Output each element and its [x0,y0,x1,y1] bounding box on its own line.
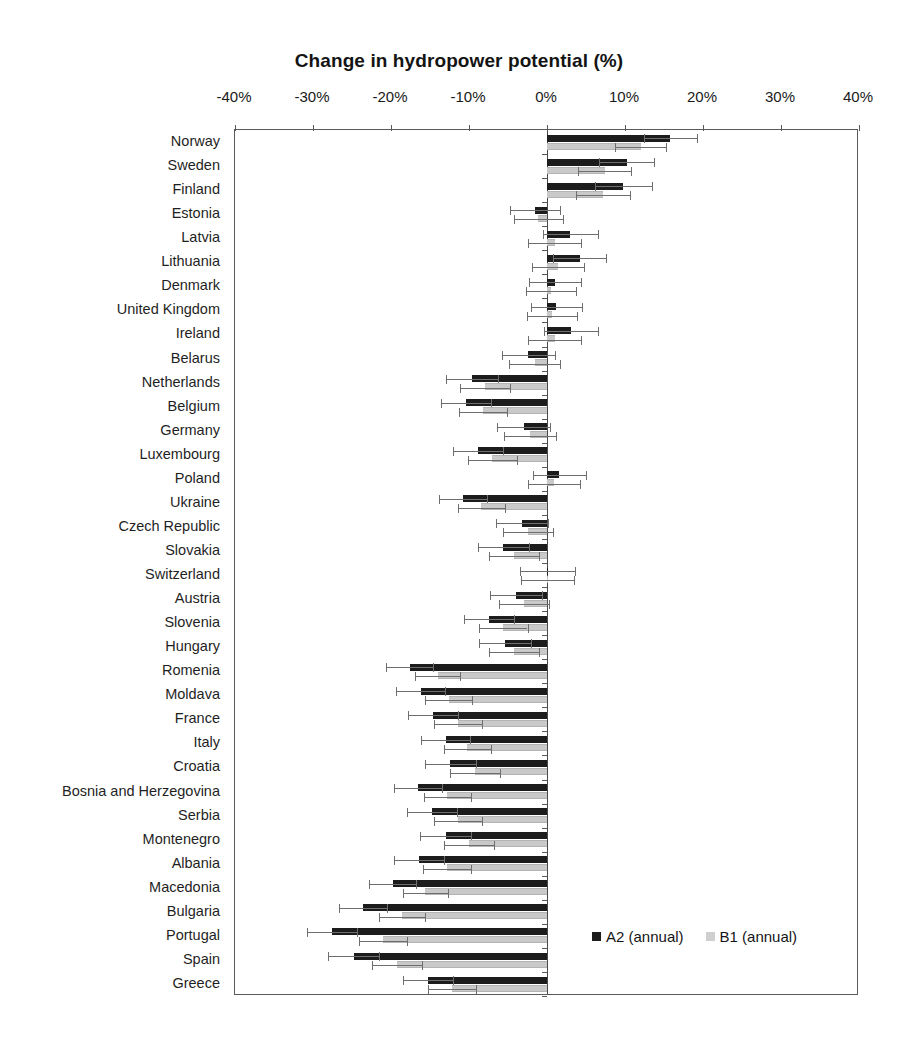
error-bar-cap [582,303,583,312]
error-bar-line [444,845,494,846]
error-bar-line [578,171,631,172]
y-tick-mark [542,539,547,540]
y-tick-mark [542,587,547,588]
error-bar-cap [576,191,577,200]
category-label: Lithuania [161,253,220,269]
error-bar-cap [539,552,540,561]
error-bar-cap [379,913,380,922]
error-bar-cap [533,471,534,480]
x-tick-mark [703,125,704,131]
legend-item: B1 (annual) [706,928,798,945]
error-bar-cap [379,952,380,961]
y-tick-mark [542,491,547,492]
error-bar-cap [504,432,505,441]
error-bar-line [526,291,576,292]
category-label: Sweden [168,157,220,173]
x-tick-mark [625,125,626,131]
error-bar-line [514,219,562,220]
error-bar-cap [652,182,653,191]
bar-b1 [535,359,547,366]
error-bar-line [396,691,444,692]
category-label: Slovakia [165,542,220,558]
error-bar-cap [387,904,388,913]
bar-b1 [483,407,547,414]
y-tick-mark [542,996,547,997]
error-bar-cap [666,143,667,152]
error-bar-cap [439,495,440,504]
error-bar-line [499,604,549,605]
y-tick-mark [542,804,547,805]
x-tick-mark [859,125,860,131]
error-bar-line [504,436,555,437]
error-bar-cap [505,504,506,513]
y-tick-mark [542,828,547,829]
y-tick-mark [542,852,547,853]
error-bar-line [424,797,471,798]
error-bar-line [510,210,560,211]
bar-b1 [447,864,547,871]
error-bar-cap [598,230,599,239]
error-bar-line [339,908,387,909]
bar-b1 [547,479,554,486]
error-bar-line [359,941,407,942]
x-tick-label: -40% [216,88,251,105]
error-bar-line [439,499,487,500]
error-bar-line [521,580,574,581]
error-bar-cap [555,351,556,360]
error-bar-cap [503,528,504,537]
bar-b1 [547,335,555,342]
category-label: Norway [171,133,220,149]
error-bar-cap [396,687,397,696]
error-bar-cap [521,576,522,585]
error-bar-cap [509,360,510,369]
error-bar-line [307,932,357,933]
error-bar-line [496,523,547,524]
error-bar-line [489,556,539,557]
error-bar-cap [577,312,578,321]
error-bar-cap [496,519,497,528]
category-label: Romenia [162,662,220,678]
y-tick-mark [542,395,547,396]
error-bar-line [446,379,497,380]
error-bar-cap [630,191,631,200]
error-bar-cap [581,336,582,345]
error-bar-cap [444,841,445,850]
x-tick-label: 20% [687,88,717,105]
error-bar-cap [372,961,373,970]
error-bar-line [479,643,530,644]
bar-b1 [547,311,552,318]
error-bar-line [464,619,514,620]
error-bar-cap [528,480,529,489]
error-bar-cap [442,784,443,793]
error-bar-line [468,460,516,461]
error-bar-line [425,764,476,765]
error-bar-cap [580,480,581,489]
bar-b1 [467,744,547,751]
bar-b1 [438,672,547,679]
error-bar-line [644,138,697,139]
category-label: Poland [175,470,220,486]
y-tick-mark [542,659,547,660]
y-tick-mark [542,780,547,781]
error-bar-line [544,331,599,332]
bar-b1 [402,912,547,919]
y-tick-mark [542,755,547,756]
y-tick-mark [542,250,547,251]
error-bar-line [420,836,471,837]
x-tick-mark [547,125,548,131]
y-tick-mark [542,347,547,348]
error-bar-line [428,989,476,990]
category-label: Greece [172,975,220,991]
bar-b1 [492,455,547,462]
error-bar-cap [434,720,435,729]
chart-title: Change in hydropower potential (%) [0,50,918,72]
error-bar-cap [584,263,585,272]
error-bar-cap [489,648,490,657]
error-bar-line [441,403,491,404]
bar-b1 [547,167,605,174]
y-tick-mark [542,274,547,275]
error-bar-cap [578,167,579,176]
error-bar-line [520,571,575,572]
legend-label: B1 (annual) [720,928,798,945]
error-bar-cap [517,456,518,465]
